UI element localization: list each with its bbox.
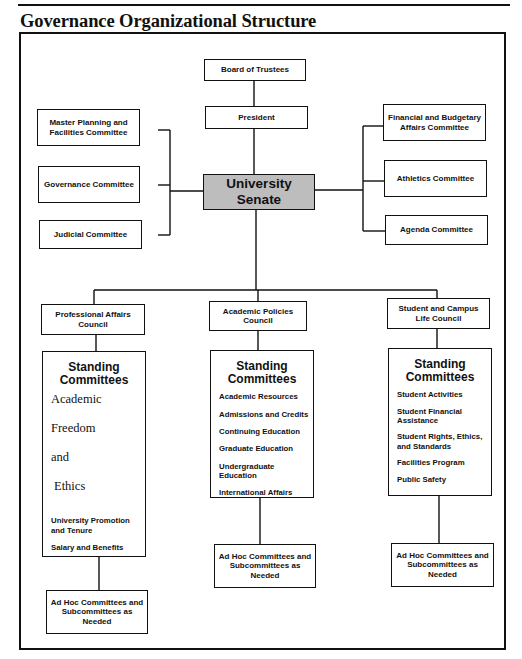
academic-policies-council-node: Academic Policies Council	[209, 301, 307, 331]
standing-header: Standing Committees	[211, 360, 313, 386]
standing-item: Freedom	[51, 421, 145, 436]
standing-item: Undergraduate Education	[219, 462, 313, 481]
standing-header: Standing Committees	[389, 358, 491, 384]
standing-item: Academic Resources	[219, 392, 313, 401]
university-senate-node: University Senate	[203, 174, 315, 210]
agenda-committee-node: Agenda Committee	[385, 215, 488, 245]
standing-item: Continuing Education	[219, 427, 313, 436]
judicial-committee-node: Judicial Committee	[39, 220, 142, 249]
standing-item: Ethics	[51, 479, 145, 494]
student-campus-life-council-node: Student and Campus Life Council	[387, 298, 490, 329]
standing-item: Graduate Education	[219, 444, 313, 453]
standing-item: Student Activities	[397, 390, 491, 399]
president-node: President	[205, 106, 308, 129]
athletics-committee-node: Athletics Committee	[384, 160, 487, 197]
master-planning-committee-node: Master Planning and Facilities Committee	[37, 109, 140, 146]
standing-item: Student Financial Assistance	[397, 407, 477, 426]
student-standing-committees: Standing Committees Student Activities S…	[388, 348, 492, 496]
academic-standing-committees: Standing Committees Academic Resources A…	[210, 350, 314, 498]
governance-committee-node: Governance Committee	[38, 166, 140, 203]
standing-header: Standing Committees	[43, 361, 145, 387]
academic-adhoc-node: Ad Hoc Committees and Subcommittees as N…	[214, 544, 316, 588]
standing-item: Salary and Benefits	[51, 543, 145, 552]
financial-budgetary-committee-node: Financial and Budgetary Affairs Committe…	[383, 104, 486, 141]
standing-item: University Promotion and Tenure	[51, 516, 133, 535]
standing-item: and	[51, 450, 145, 465]
professional-affairs-council-node: Professional Affairs Council	[41, 304, 145, 335]
professional-standing-committees: Standing Committees Academic Freedom and…	[42, 351, 146, 557]
standing-item: Facilities Program	[397, 458, 491, 467]
student-adhoc-node: Ad Hoc Committees and Subcommittees as N…	[391, 543, 494, 587]
standing-item: Student Rights, Ethics, and Standards	[397, 432, 483, 451]
standing-item: Academic	[51, 392, 145, 407]
professional-adhoc-node: Ad Hoc Committees and Subcommittees as N…	[46, 590, 148, 634]
standing-item: International Affairs	[219, 488, 313, 497]
board-of-trustees-node: Board of Trustees	[204, 59, 306, 81]
standing-item: Admissions and Credits	[219, 410, 313, 419]
standing-item: Public Safety	[397, 475, 491, 484]
